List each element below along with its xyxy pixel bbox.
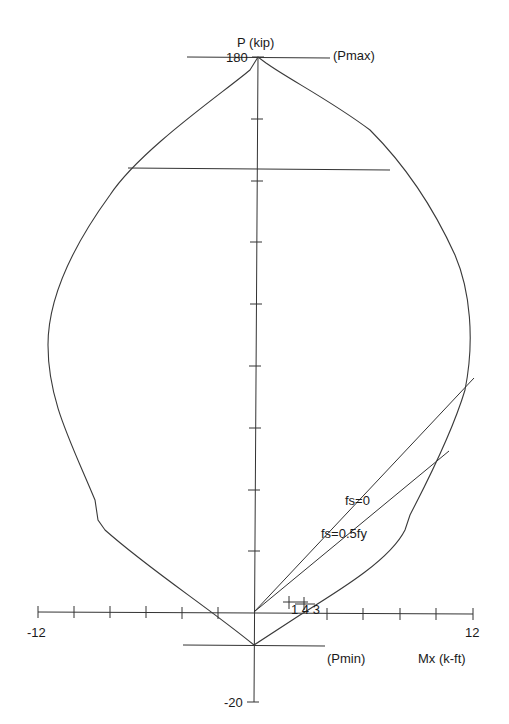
cutoff-line bbox=[128, 168, 390, 170]
interaction-curve bbox=[48, 57, 470, 645]
x-axis-label: Mx (k-ft) bbox=[418, 651, 466, 666]
fs0-label: fs=0 bbox=[345, 493, 370, 508]
y-max-tick-label: 180 bbox=[226, 50, 248, 65]
x-axis bbox=[38, 612, 473, 614]
points-label: 1 4 3 bbox=[291, 602, 320, 617]
interaction-diagram: P (kip) 180 (Pmax) -20 -12 12 Mx (k-ft) … bbox=[0, 0, 509, 724]
pmax-label: (Pmax) bbox=[333, 48, 375, 63]
pmin-label: (Pmin) bbox=[327, 651, 365, 666]
x-min-tick-label: -12 bbox=[27, 625, 46, 640]
x-max-tick-label: 12 bbox=[465, 625, 479, 640]
fs05-label: fs=0.5fy bbox=[321, 526, 367, 541]
y-min-tick-label: -20 bbox=[224, 695, 243, 710]
y-axis-label: P (kip) bbox=[237, 35, 274, 50]
y-axis bbox=[254, 57, 258, 702]
